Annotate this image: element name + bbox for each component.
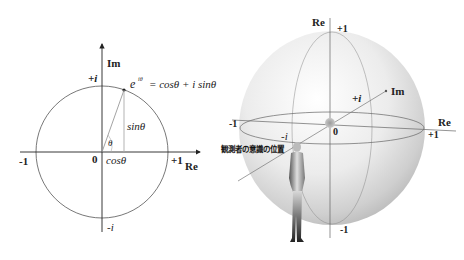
sphere-plus-i-label: +i	[352, 92, 362, 104]
sphere-minus-i-label: -i	[281, 130, 288, 142]
im-axis-label: Im	[107, 57, 120, 69]
euler-formula: e iθ = cosθ + i sinθ	[130, 76, 217, 91]
sphere-origin-label: 0	[333, 126, 338, 137]
minus-i-label: -i	[107, 221, 114, 233]
sphere-im-label: Im	[391, 85, 404, 97]
unit-circle-diagram: Im +i -i -1 +1 Re 0 θ cosθ sinθ e iθ = c…	[19, 44, 217, 233]
sphere-re-top-label: Re	[312, 16, 325, 28]
theta-label: θ	[108, 138, 113, 148]
sphere-left-label: -1	[229, 118, 237, 129]
sin-label: sinθ	[127, 120, 146, 132]
euler-exponent: iθ	[138, 76, 143, 82]
minus-one-label: -1	[19, 155, 28, 167]
origin-label: 0	[92, 153, 98, 165]
cos-label: cosθ	[106, 154, 127, 166]
plus-i-label: +i	[88, 72, 98, 84]
plus-one-label: +1	[171, 154, 183, 166]
sphere-diagram: Re +1 -1 Im +i -i -1 +1 Re 0 観測者の意識の位置	[221, 16, 456, 242]
euler-base: e	[130, 77, 136, 91]
sphere-top-label: +1	[337, 23, 348, 34]
sphere-bottom-label: -1	[340, 224, 348, 235]
diagram-canvas: Im +i -i -1 +1 Re 0 θ cosθ sinθ e iθ = c…	[0, 0, 464, 260]
sphere-re-right-label: Re	[438, 116, 451, 128]
im-axis-tip	[385, 90, 387, 92]
observer-label: 観測者の意識の位置	[221, 144, 285, 154]
re-axis-label: Re	[185, 160, 198, 172]
radius-vector	[102, 90, 124, 152]
sphere-right-label: +1	[428, 129, 439, 140]
euler-rhs: = cosθ + i sinθ	[149, 78, 217, 90]
